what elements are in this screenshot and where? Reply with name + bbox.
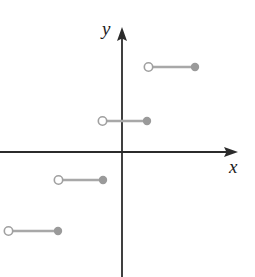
closed-endpoint-dot <box>191 63 199 71</box>
step-segment-1 <box>4 227 62 235</box>
y-axis-label: y <box>102 19 110 38</box>
open-endpoint-dot <box>4 227 12 235</box>
step-function-figure: y x <box>0 0 255 277</box>
closed-endpoint-dot <box>54 227 62 235</box>
step-segment-4 <box>144 63 199 71</box>
step-segments-group <box>4 63 199 235</box>
step-segment-3 <box>98 117 151 125</box>
plot-canvas <box>0 0 255 277</box>
axes-group <box>0 27 238 277</box>
closed-endpoint-dot <box>99 176 107 184</box>
x-axis-label: x <box>229 157 237 176</box>
open-endpoint-dot <box>98 117 106 125</box>
step-segment-2 <box>54 176 107 184</box>
open-endpoint-dot <box>144 63 152 71</box>
open-endpoint-dot <box>54 176 62 184</box>
closed-endpoint-dot <box>143 117 151 125</box>
